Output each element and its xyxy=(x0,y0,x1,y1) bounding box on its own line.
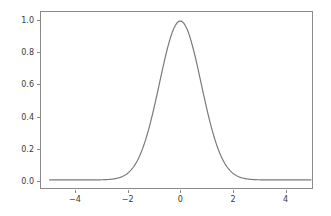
y-tick-label: 0.4 xyxy=(8,112,34,121)
y-tick-mark xyxy=(37,181,40,182)
y-tick-mark xyxy=(37,117,40,118)
y-tick-label: 0.2 xyxy=(8,144,34,153)
x-tick-mark xyxy=(233,190,234,193)
y-tick-label: 0.0 xyxy=(8,176,34,185)
y-tick-mark xyxy=(37,84,40,85)
y-tick-label: 0.6 xyxy=(8,80,34,89)
x-tick-mark xyxy=(180,190,181,193)
plot-axes xyxy=(40,11,313,189)
x-tick-mark xyxy=(128,190,129,193)
x-tick-mark xyxy=(286,190,287,193)
gaussian-curve xyxy=(41,12,312,188)
x-tick-label: −2 xyxy=(122,195,134,204)
y-tick-mark xyxy=(37,149,40,150)
y-tick-mark xyxy=(37,52,40,53)
x-tick-label: 0 xyxy=(178,195,183,204)
y-tick-label: 0.8 xyxy=(8,48,34,57)
x-tick-label: 4 xyxy=(283,195,288,204)
x-tick-label: 2 xyxy=(230,195,235,204)
y-tick-mark xyxy=(37,20,40,21)
x-tick-mark xyxy=(75,190,76,193)
y-tick-label: 1.0 xyxy=(8,16,34,25)
x-tick-label: −4 xyxy=(69,195,81,204)
gaussian-curve-path xyxy=(50,21,311,180)
matplotlib-figure: 0.00.20.40.60.81.0 −4−2024 xyxy=(0,0,331,216)
